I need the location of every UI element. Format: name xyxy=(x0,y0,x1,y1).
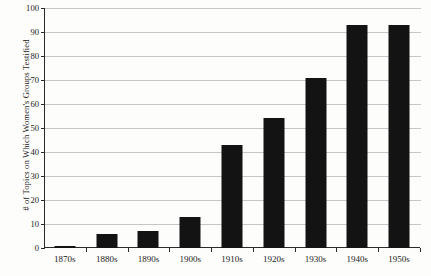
y-tick-label-90: 90 xyxy=(30,27,39,37)
y-tick-label-30: 30 xyxy=(30,171,39,181)
y-tick-label-20: 20 xyxy=(30,195,39,205)
bar-1900s xyxy=(180,217,201,248)
y-tick-label-10: 10 xyxy=(30,219,39,229)
bar-slot xyxy=(211,8,253,248)
bar-1930s xyxy=(305,78,326,248)
x-tick-label-1870s: 1870s xyxy=(54,254,76,264)
bar-slot xyxy=(336,8,378,248)
x-tick-label-1920s: 1920s xyxy=(263,254,285,264)
x-tick-mark-2 xyxy=(128,248,129,252)
bars-group xyxy=(44,8,420,248)
x-tick-label-1890s: 1890s xyxy=(138,254,160,264)
x-tick-label-1900s: 1900s xyxy=(179,254,201,264)
bar-slot xyxy=(44,8,86,248)
bar-1940s xyxy=(347,25,368,248)
x-tick-label-1880s: 1880s xyxy=(96,254,118,264)
y-tick-label-70: 70 xyxy=(30,75,39,85)
x-tick-mark-4 xyxy=(211,248,212,252)
y-tick-label-50: 50 xyxy=(30,123,39,133)
bar-slot xyxy=(169,8,211,248)
bar-1950s xyxy=(389,25,410,248)
x-tick-mark-6 xyxy=(295,248,296,252)
bar-1910s xyxy=(221,145,242,248)
bar-1880s xyxy=(96,234,117,248)
x-tick-label-1910s: 1910s xyxy=(221,254,243,264)
y-tick-label-40: 40 xyxy=(30,147,39,157)
y-tick-label-100: 100 xyxy=(26,3,39,13)
x-tick-mark-1 xyxy=(86,248,87,252)
y-tick-label-0: 0 xyxy=(35,243,39,253)
bar-1890s xyxy=(138,231,159,248)
bar-chart: # of Topics on Which Women's Groups Test… xyxy=(0,0,431,276)
bar-slot xyxy=(128,8,170,248)
bar-slot xyxy=(253,8,295,248)
x-tick-mark-7 xyxy=(336,248,337,252)
y-tick-label-80: 80 xyxy=(30,51,39,61)
bar-slot xyxy=(86,8,128,248)
x-tick-mark-8 xyxy=(378,248,379,252)
x-tick-mark-3 xyxy=(169,248,170,252)
bar-1920s xyxy=(263,118,284,248)
x-tick-label-1950s: 1950s xyxy=(388,254,410,264)
bar-slot xyxy=(295,8,337,248)
x-tick-mark-5 xyxy=(253,248,254,252)
bar-slot xyxy=(378,8,420,248)
x-tick-label-1930s: 1930s xyxy=(305,254,327,264)
x-tick-label-1940s: 1940s xyxy=(347,254,369,264)
x-tick-mark-end xyxy=(420,248,421,252)
x-axis-group: 1870s1880s1890s1900s1910s1920s1930s1940s… xyxy=(44,248,420,276)
y-tick-label-60: 60 xyxy=(30,99,39,109)
